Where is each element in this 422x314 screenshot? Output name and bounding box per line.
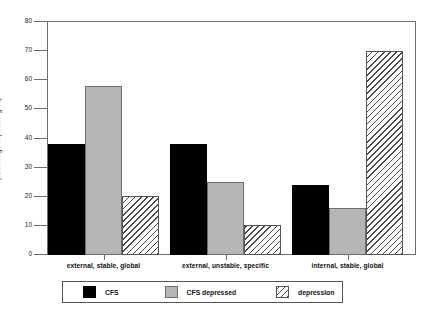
y-tick-label-30: 30 — [16, 163, 32, 170]
legend-swatch-depression-icon — [276, 286, 289, 298]
y-tick-label-80: 80 — [16, 17, 32, 24]
bar-external-unstable-specific-CFS — [170, 144, 207, 255]
category-label-1: external, unstable, specific — [166, 262, 286, 269]
y-tick-label-70: 70 — [16, 46, 32, 53]
y-tick-60 — [34, 79, 47, 80]
chart-container: percentage of patient group 010203040506… — [0, 0, 422, 314]
bar-external-unstable-specific-CFS-depressed — [207, 182, 244, 255]
x-tick-0 — [104, 255, 105, 260]
y-tick-50 — [34, 108, 47, 109]
y-tick-70 — [34, 50, 47, 51]
y-tick-40 — [34, 138, 47, 139]
y-tick-label-60: 60 — [16, 75, 32, 82]
legend-swatch-cfs-icon — [83, 286, 96, 298]
legend-item-depression: depression — [276, 286, 334, 298]
y-tick-label-50: 50 — [16, 104, 32, 111]
legend-label-depression: depression — [298, 289, 334, 296]
y-tick-0 — [34, 254, 47, 255]
legend-label-cfs-depressed: CFS depressed — [187, 289, 236, 296]
x-tick-2 — [348, 255, 349, 260]
bar-external-stable-global-depression — [122, 196, 159, 254]
y-tick-20 — [34, 196, 47, 197]
y-tick-label-10: 10 — [16, 221, 32, 228]
x-tick-1 — [226, 255, 227, 260]
bar-external-stable-global-CFS — [48, 144, 85, 255]
bar-internal-stable-global-CFS — [292, 185, 329, 255]
bar-internal-stable-global-depression — [366, 51, 403, 255]
bars-layer — [49, 23, 415, 255]
chart-legend: CFS CFS depressed depression — [62, 281, 343, 303]
y-tick-10 — [34, 225, 47, 226]
y-tick-80 — [34, 21, 47, 22]
category-label-2: internal, stable, global — [288, 262, 408, 269]
category-label-0: external, stable, global — [44, 262, 164, 269]
legend-label-cfs: CFS — [105, 289, 119, 296]
y-tick-label-20: 20 — [16, 192, 32, 199]
legend-swatch-cfs-depressed-icon — [165, 286, 178, 298]
bar-external-stable-global-CFS-depressed — [85, 86, 122, 255]
y-tick-label-0: 0 — [16, 250, 32, 257]
bar-internal-stable-global-CFS-depressed — [329, 208, 366, 255]
y-axis-title: percentage of patient group — [0, 0, 1, 58]
y-tick-label-40: 40 — [16, 134, 32, 141]
y-tick-30 — [34, 167, 47, 168]
legend-item-cfs: CFS — [83, 286, 119, 298]
legend-item-cfs-depressed: CFS depressed — [165, 286, 236, 298]
bar-external-unstable-specific-depression — [244, 225, 281, 254]
